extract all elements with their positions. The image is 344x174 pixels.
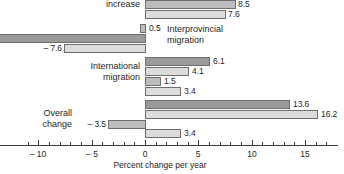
value-label-g1-b2: 8.5 — [238, 0, 250, 9]
value-label-g4-b3: – 3.5 — [74, 120, 106, 129]
x-tick--3 — [113, 142, 114, 146]
value-label-g3-b4: 3.4 — [184, 87, 196, 96]
tick-label-0: 0 — [130, 149, 160, 159]
bar-g1-b2 — [145, 0, 236, 9]
category-label-overall: Overall — [28, 108, 72, 119]
category-label-interprovincial: Interprovincial — [167, 24, 277, 35]
category-label-international-2: migration — [58, 72, 140, 83]
x-tick-14 — [294, 142, 295, 146]
bar-g1-b3 — [145, 10, 226, 19]
x-tick-5 — [198, 140, 199, 146]
bar-chart: 8.5 7.6 increase 0.5 – 7.6 Interprovinci… — [0, 0, 344, 174]
bar-g3-b3 — [145, 77, 161, 86]
value-label-g4-b2: 16.2 — [321, 110, 337, 119]
bar-g2-b3 — [64, 44, 146, 53]
x-tick-17 — [326, 142, 327, 146]
value-label-g4-b1: 13.6 — [293, 100, 309, 109]
category-label-interprovincial-2: migration — [167, 35, 277, 46]
value-label-g2-b3: – 7.6 — [30, 44, 62, 53]
tick-label-15: 15 — [290, 149, 320, 159]
bar-g3-b1 — [145, 57, 210, 66]
bar-g4-b1 — [145, 100, 290, 109]
x-tick-12 — [273, 142, 274, 146]
x-tick-16 — [316, 142, 317, 146]
x-tick--7 — [70, 142, 71, 146]
category-label-international: International — [58, 61, 140, 72]
value-label-g3-b1: 6.1 — [213, 57, 225, 66]
bar-g2-b1 — [140, 24, 146, 33]
bar-g4-b3 — [108, 120, 146, 129]
tick-label-10: 10 — [237, 149, 267, 159]
x-tick-9 — [241, 142, 242, 146]
bar-g2-b1-neg — [0, 34, 146, 43]
x-tick--8 — [60, 142, 61, 146]
x-tick-8 — [230, 142, 231, 146]
x-tick-3 — [177, 142, 178, 146]
x-tick--10 — [38, 140, 39, 146]
x-tick--11 — [28, 142, 29, 146]
x-tick-6 — [209, 142, 210, 146]
bar-g4-b2 — [145, 110, 318, 119]
value-label-g3-b3: 1.5 — [164, 77, 176, 86]
value-label-g3-b2: 4.1 — [192, 67, 204, 76]
bar-g3-b2 — [145, 67, 189, 76]
bar-g3-b4 — [145, 87, 181, 96]
x-tick-0 — [145, 140, 146, 146]
tick-label-neg5: – 5 — [77, 149, 107, 159]
x-tick-11 — [262, 142, 263, 146]
x-tick-13 — [284, 142, 285, 146]
category-label-increase: increase — [68, 0, 140, 10]
x-tick--4 — [102, 142, 103, 146]
x-tick-2 — [166, 142, 167, 146]
x-tick--1 — [134, 142, 135, 146]
x-axis-line — [0, 145, 338, 146]
value-label-g2-b1: 0.5 — [149, 24, 161, 33]
x-tick--5 — [92, 140, 93, 146]
x-tick-4 — [188, 142, 189, 146]
x-axis-title: Percent change per year — [80, 160, 240, 170]
x-tick-1 — [156, 142, 157, 146]
x-tick-10 — [252, 140, 253, 146]
bar-g4-b4 — [145, 129, 181, 138]
tick-label-5: 5 — [183, 149, 213, 159]
value-label-g1-b3: 7.6 — [228, 10, 240, 19]
x-tick-7 — [220, 142, 221, 146]
x-tick-15 — [305, 140, 306, 146]
category-label-overall-2: change — [28, 119, 72, 130]
x-tick--9 — [49, 142, 50, 146]
value-label-g4-b4: 3.4 — [184, 129, 196, 138]
x-tick--6 — [81, 142, 82, 146]
tick-label-neg10: – 10 — [23, 149, 53, 159]
x-tick--2 — [124, 142, 125, 146]
